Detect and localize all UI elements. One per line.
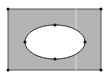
- vertex-point[interactable]: [54, 24, 57, 27]
- vertex-point[interactable]: [54, 58, 57, 61]
- vertex-point[interactable]: [24, 41, 27, 44]
- diagram-canvas: [0, 0, 111, 81]
- vertex-point[interactable]: [100, 8, 103, 11]
- vertex-point[interactable]: [84, 41, 87, 44]
- vertex-point[interactable]: [7, 69, 10, 72]
- hole-outline: [25, 25, 85, 59]
- vertex-point[interactable]: [100, 69, 103, 72]
- vertex-point[interactable]: [7, 8, 10, 11]
